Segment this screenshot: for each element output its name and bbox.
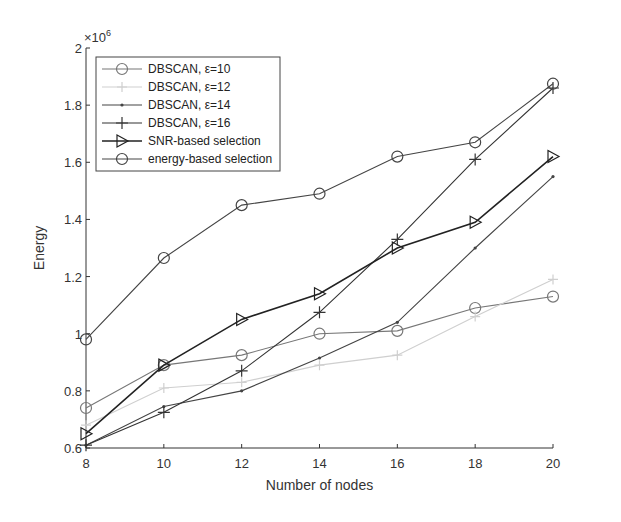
- legend-label: DBSCAN, ε=10: [148, 62, 231, 76]
- x-tick-label: 8: [82, 456, 89, 471]
- legend-label: DBSCAN, ε=16: [148, 116, 231, 130]
- y-tick-label: 0.6: [64, 441, 82, 456]
- x-tick-label: 16: [390, 456, 404, 471]
- legend-label: energy-based selection: [148, 152, 272, 166]
- x-tick-label: 12: [234, 456, 248, 471]
- legend-label: SNR-based selection: [148, 134, 261, 148]
- y-tick-label: 0.8: [64, 384, 82, 399]
- x-axis-label: Number of nodes: [266, 477, 373, 493]
- x-tick-label: 18: [468, 456, 482, 471]
- series-1: [81, 274, 558, 430]
- y-tick-label: 1.4: [64, 212, 82, 227]
- legend-entry: DBSCAN, ε=10: [102, 62, 231, 76]
- legend-label: DBSCAN, ε=14: [148, 98, 231, 112]
- line-chart: 81012141618200.60.811.21.41.61.82×106Num…: [0, 0, 621, 522]
- y-tick-label: 1.2: [64, 270, 82, 285]
- y-multiplier: ×106: [84, 28, 111, 45]
- x-tick-label: 20: [546, 456, 560, 471]
- y-tick-label: 1.6: [64, 155, 82, 170]
- legend-label: DBSCAN, ε=12: [148, 80, 231, 94]
- y-tick-label: 2: [75, 41, 82, 56]
- x-tick-label: 14: [312, 456, 326, 471]
- x-tick-label: 10: [157, 456, 171, 471]
- y-tick-label: 1.8: [64, 98, 82, 113]
- y-axis-label: Energy: [31, 226, 47, 270]
- legend: DBSCAN, ε=10DBSCAN, ε=12DBSCAN, ε=14DBSC…: [96, 57, 280, 171]
